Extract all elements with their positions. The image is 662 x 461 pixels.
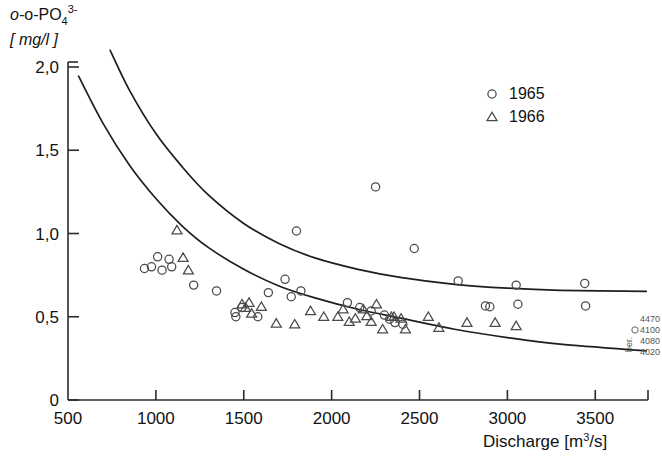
- x-tick-label: 1500: [225, 409, 263, 428]
- data-point-circle: [582, 302, 590, 310]
- x-axis-ticks: 500100015002000250030003500: [54, 390, 614, 428]
- data-point-circle: [514, 300, 522, 308]
- data-point-circle: [264, 289, 272, 297]
- margin-notes: 4470410040804020ber.: [624, 314, 660, 357]
- data-point-triangle: [183, 265, 193, 273]
- data-point-circle: [410, 244, 418, 252]
- data-point-circle: [292, 227, 300, 235]
- data-point-circle: [287, 293, 295, 301]
- x-tick-label: 500: [54, 409, 82, 428]
- x-tick-label: 1000: [137, 409, 175, 428]
- data-series-1966: [172, 225, 521, 333]
- x-tick-label: 3000: [488, 409, 526, 428]
- y-axis-ticks: 00,51,01,52,0: [35, 58, 79, 410]
- x-tick-label: 2000: [313, 409, 351, 428]
- data-point-triangle: [271, 319, 281, 327]
- data-point-triangle: [378, 324, 388, 332]
- lower-envelope-curve: [79, 76, 647, 351]
- y-axis-units-label: [ mg/l ]: [9, 31, 59, 48]
- data-point-triangle: [487, 112, 497, 120]
- data-point-circle: [212, 287, 220, 295]
- data-point-triangle: [256, 302, 266, 310]
- data-point-circle: [371, 183, 379, 191]
- data-point-circle: [168, 263, 176, 271]
- axes: [68, 62, 648, 400]
- scatter-plot-figure: o-o-PO43- [ mg/l ] 00,51,01,52,0 5001000…: [0, 0, 662, 461]
- data-point-triangle: [511, 321, 521, 329]
- data-point-triangle: [490, 318, 500, 326]
- data-point-triangle: [462, 318, 472, 326]
- data-point-triangle: [319, 312, 329, 320]
- data-point-triangle: [172, 225, 182, 233]
- data-point-triangle: [178, 253, 188, 261]
- margin-note-side-text: ber.: [624, 337, 634, 352]
- margin-note-line: 4100: [640, 325, 660, 335]
- x-axis-title: Discharge [m3/s]: [483, 431, 607, 451]
- data-point-circle: [281, 275, 289, 283]
- data-point-circle: [158, 266, 166, 274]
- data-point-circle: [488, 90, 496, 98]
- y-tick-label: 0: [50, 391, 59, 410]
- x-tick-label: 2500: [401, 409, 439, 428]
- margin-note-line: 4470: [640, 314, 660, 324]
- margin-note-line: 4020: [640, 347, 660, 357]
- y-tick-label: 1,0: [35, 225, 59, 244]
- margin-note-line: 4080: [640, 336, 660, 346]
- y-tick-label: 1,5: [35, 141, 59, 160]
- upper-envelope-curve: [110, 50, 646, 291]
- x-tick-label: 3500: [576, 409, 614, 428]
- data-point-circle: [154, 253, 162, 261]
- data-point-circle: [343, 299, 351, 307]
- legend: 19651966: [487, 85, 545, 125]
- data-point-circle: [190, 281, 198, 289]
- y-tick-label: 0,5: [35, 308, 59, 327]
- data-point-triangle: [290, 319, 300, 327]
- legend-label-1965: 1965: [509, 85, 545, 102]
- y-axis-label: o-o-PO43- [ mg/l ]: [9, 3, 78, 48]
- margin-note-circle-icon: [632, 327, 638, 333]
- data-point-triangle: [423, 312, 433, 320]
- chart-page: o-o-PO43- [ mg/l ] 00,51,01,52,0 5001000…: [0, 0, 662, 461]
- legend-label-1966: 1966: [509, 108, 545, 125]
- data-point-triangle: [306, 306, 316, 314]
- data-point-circle: [581, 279, 589, 287]
- y-axis-label-species: o-o-PO43-: [10, 3, 78, 27]
- y-tick-label: 2,0: [35, 58, 59, 77]
